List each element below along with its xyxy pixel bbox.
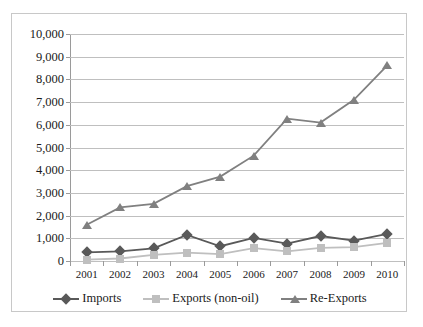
legend-item-imports[interactable]: Imports [53, 291, 121, 306]
x-axis-tick-label: 2005 [209, 268, 231, 280]
y-tick-mark [66, 238, 70, 239]
x-tick-mark [170, 261, 171, 266]
x-tick-mark [103, 261, 104, 266]
x-axis-tick-label: 2004 [176, 268, 198, 280]
legend-swatch [281, 293, 307, 305]
x-tick-mark [270, 261, 271, 266]
x-tick-mark [204, 261, 205, 266]
series-line-re-exports [87, 65, 388, 224]
x-axis-labels: 2001200220032004200520062007200820092010 [70, 268, 404, 284]
x-axis-tick-label: 2010 [376, 268, 398, 280]
square-marker-icon [283, 247, 291, 255]
x-tick-mark [137, 261, 138, 266]
y-tick-mark [66, 125, 70, 126]
x-tick-mark [70, 261, 71, 266]
square-marker-icon [250, 244, 258, 252]
x-axis-tick-label: 2007 [276, 268, 298, 280]
legend-label: Imports [82, 291, 121, 306]
series-lines [70, 34, 404, 262]
triangle-marker-icon [316, 119, 326, 127]
triangle-marker-icon [182, 182, 192, 190]
y-axis-tick-label: 8,000 [36, 73, 64, 86]
x-tick-mark [371, 261, 372, 266]
y-tick-mark [66, 148, 70, 149]
y-tick-mark [66, 193, 70, 194]
y-axis-tick-label: 9,000 [36, 51, 64, 64]
x-axis-tick-label: 2002 [109, 268, 131, 280]
y-tick-mark [66, 170, 70, 171]
triangle-marker-icon [82, 221, 92, 229]
y-axis-tick-label: 0 [58, 255, 64, 268]
x-axis-ticks [70, 261, 404, 267]
legend-swatch [143, 293, 169, 305]
triangle-marker-icon [282, 115, 292, 123]
x-tick-mark [337, 261, 338, 266]
triangle-marker-icon [249, 152, 259, 160]
triangle-marker-icon [349, 96, 359, 104]
square-marker-icon [383, 239, 391, 247]
y-tick-mark [66, 216, 70, 217]
square-marker-icon [152, 295, 160, 303]
y-axis-tick-label: 2,000 [36, 210, 64, 223]
y-axis-tick-label: 6,000 [36, 119, 64, 132]
square-marker-icon [350, 243, 358, 251]
y-axis-tick-label: 4,000 [36, 164, 64, 177]
legend-item-re-exports[interactable]: Re-Exports [281, 291, 367, 306]
y-axis-tick-label: 5,000 [36, 142, 64, 155]
y-axis-tick-label: 7,000 [36, 96, 64, 109]
y-tick-mark [66, 79, 70, 80]
series-line-imports [87, 234, 388, 253]
x-axis-tick-label: 2003 [143, 268, 165, 280]
square-marker-icon [317, 244, 325, 252]
triangle-marker-icon [382, 61, 392, 69]
y-tick-mark [66, 34, 70, 35]
y-axis-tick-label: 1,000 [36, 232, 64, 245]
x-tick-mark [404, 261, 405, 266]
square-marker-icon [150, 251, 158, 259]
triangle-marker-icon [115, 203, 125, 211]
x-axis-tick-label: 2008 [310, 268, 332, 280]
x-tick-mark [237, 261, 238, 266]
triangle-marker-icon [215, 173, 225, 181]
x-axis-tick-label: 2001 [76, 268, 98, 280]
y-axis-labels: 10,0009,0008,0007,0006,0005,0004,0003,00… [12, 34, 64, 262]
square-marker-icon [216, 250, 224, 258]
diamond-marker-icon [61, 293, 72, 304]
chart-legend: ImportsExports (non-oil)Re-Exports [12, 291, 408, 306]
y-tick-mark [66, 102, 70, 103]
triangle-marker-icon [149, 200, 159, 208]
legend-item-exports-non-oil[interactable]: Exports (non-oil) [143, 291, 258, 306]
y-tick-mark [66, 57, 70, 58]
legend-label: Re-Exports [310, 291, 367, 306]
plot-area [70, 34, 404, 261]
legend-swatch [53, 293, 79, 305]
x-tick-mark [304, 261, 305, 266]
square-marker-icon [183, 249, 191, 257]
y-axis-tick-label: 3,000 [36, 187, 64, 200]
x-axis-tick-label: 2006 [243, 268, 265, 280]
triangle-marker-icon [290, 295, 300, 303]
legend-label: Exports (non-oil) [172, 291, 258, 306]
chart-container: 10,0009,0008,0007,0006,0005,0004,0003,00… [11, 13, 407, 312]
y-axis-tick-label: 10,000 [30, 28, 64, 41]
x-axis-tick-label: 2009 [343, 268, 365, 280]
